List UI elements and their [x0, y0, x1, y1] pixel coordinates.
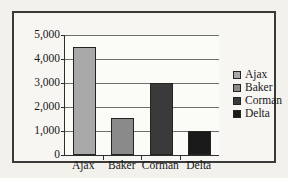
legend-item-ajax[interactable]: Ajax — [233, 68, 288, 81]
legend-swatch-icon — [233, 71, 241, 79]
y-axis-tick-label: 2,000 — [34, 101, 60, 113]
legend-item-corman[interactable]: Corman — [233, 94, 288, 107]
plot-area — [64, 35, 219, 156]
x-axis-label-delta: Delta — [180, 159, 219, 172]
x-axis-label-corman: Corman — [141, 159, 180, 172]
legend-item-baker[interactable]: Baker — [233, 81, 288, 94]
legend-label: Corman — [245, 95, 282, 107]
legend-label: Delta — [245, 108, 270, 120]
y-axis-tick — [61, 35, 65, 36]
legend-swatch-icon — [233, 84, 241, 92]
y-axis-tick-label: 4,000 — [34, 53, 60, 65]
x-axis-labels: AjaxBakerCormanDelta — [64, 159, 219, 175]
y-axis-tick — [61, 107, 65, 108]
y-axis-tick — [61, 59, 65, 60]
bar-ajax — [73, 47, 96, 155]
legend-label: Ajax — [245, 69, 267, 81]
y-axis-tick-label: 0 — [54, 149, 60, 161]
y-axis-tick — [61, 131, 65, 132]
legend-swatch-icon — [233, 97, 241, 105]
x-axis-label-baker: Baker — [103, 159, 142, 172]
y-axis-tick-label: 3,000 — [34, 77, 60, 89]
bar-corman — [150, 83, 173, 155]
legend-item-delta[interactable]: Delta — [233, 107, 288, 120]
y-axis-tick-label: 1,000 — [34, 125, 60, 137]
chart-legend: AjaxBakerCormanDelta — [233, 68, 288, 120]
bar-delta — [188, 131, 211, 155]
bar-baker — [111, 118, 134, 155]
x-axis-label-ajax: Ajax — [64, 159, 103, 172]
legend-swatch-icon — [233, 110, 241, 118]
y-axis-tick-label: 5,000 — [34, 29, 60, 41]
y-axis-tick — [61, 83, 65, 84]
chart-frame: 5,0004,0003,0002,0001,0000 AjaxBakerCorm… — [12, 11, 276, 163]
gridline — [65, 35, 219, 36]
chart-screenshot: 5,0004,0003,0002,0001,0000 AjaxBakerCorm… — [0, 0, 288, 178]
legend-label: Baker — [245, 82, 272, 94]
y-axis-labels: 5,0004,0003,0002,0001,0000 — [16, 35, 60, 156]
